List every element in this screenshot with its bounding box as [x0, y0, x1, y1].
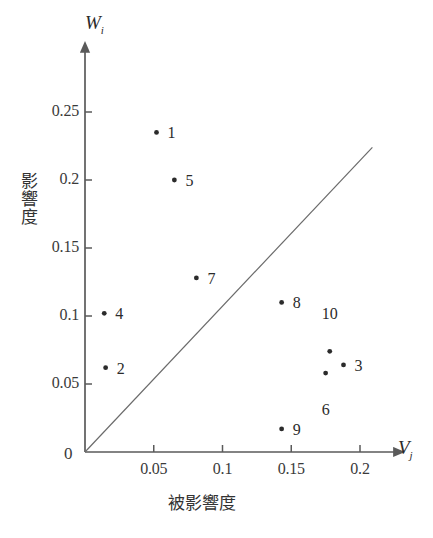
data-point-label-2: 2 — [117, 360, 125, 378]
data-point-label-3: 3 — [355, 357, 363, 375]
y-tick-label-0.1: 0.1 — [0, 306, 79, 324]
data-point-label-7: 7 — [207, 270, 215, 288]
data-point-label-4: 4 — [115, 305, 123, 323]
data-point-label-9: 9 — [293, 421, 301, 439]
y-tick-label-0.25: 0.25 — [0, 102, 79, 120]
data-point-1[interactable] — [154, 130, 159, 135]
y-tick-label-0.15: 0.15 — [0, 238, 79, 256]
data-points-group — [102, 130, 346, 431]
data-point-6[interactable] — [323, 371, 328, 376]
data-point-10[interactable] — [327, 349, 332, 354]
data-point-label-6: 6 — [322, 401, 330, 419]
y-axis-title: 影響度 — [19, 172, 36, 226]
data-point-3[interactable] — [341, 363, 346, 368]
data-point-label-10: 10 — [322, 305, 338, 323]
x-axis-title: 被影響度 — [168, 489, 236, 514]
data-point-label-1: 1 — [168, 124, 176, 142]
y-axis-symbol-label: Wi — [85, 12, 104, 36]
data-point-7[interactable] — [194, 276, 199, 281]
data-point-label-5: 5 — [185, 172, 193, 190]
axes-group — [85, 52, 394, 452]
data-point-2[interactable] — [103, 365, 108, 370]
data-point-5[interactable] — [172, 178, 177, 183]
y-tick-label-0.05: 0.05 — [0, 374, 79, 392]
scatter-chart-figure: 0.050.10.150.20.25 0.050.10.150.2 157428… — [0, 0, 433, 538]
data-point-8[interactable] — [279, 300, 284, 305]
tick-marks-group — [85, 112, 360, 452]
data-point-9[interactable] — [279, 426, 284, 431]
x-tick-label-0.05: 0.05 — [124, 460, 184, 478]
data-point-4[interactable] — [102, 311, 107, 316]
x-tick-label-0.15: 0.15 — [261, 460, 321, 478]
x-tick-label-0.2: 0.2 — [330, 460, 390, 478]
x-tick-label-0.1: 0.1 — [193, 460, 253, 478]
x-axis-symbol-label: Vj — [398, 437, 413, 461]
y-tick-label-0.2: 0.2 — [0, 170, 79, 188]
data-point-label-8: 8 — [293, 294, 301, 312]
origin-label: 0 — [64, 444, 73, 464]
